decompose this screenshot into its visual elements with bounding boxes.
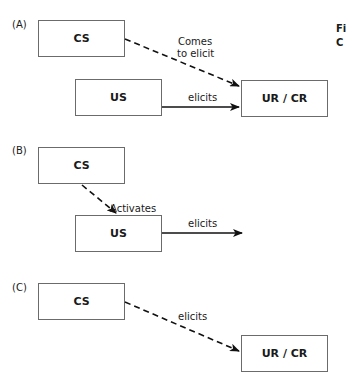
conditioning-diagram: Fi C (A) CS US UR / CR Comes to elicit e… xyxy=(0,0,354,388)
panel-c: (C) CS UR / CR elicits xyxy=(12,282,328,372)
panel-a: (A) CS US UR / CR Comes to elicit elicit… xyxy=(12,19,328,117)
panel-b-cs-node: CS xyxy=(39,148,125,184)
panel-c-response-label: UR / CR xyxy=(262,347,308,360)
panel-b-us-node: US xyxy=(76,216,162,252)
panel-a-solid-label: elicits xyxy=(188,92,217,103)
panel-a-us-label: US xyxy=(110,91,127,104)
panel-c-dashed-label: elicits xyxy=(178,311,207,322)
figure-caption-line1: Fi xyxy=(336,23,346,34)
panel-c-cs-label: CS xyxy=(73,295,89,308)
figure-caption-line2: C xyxy=(336,37,343,48)
panel-a-cs-node: CS xyxy=(39,21,125,57)
panel-b-us-label: US xyxy=(110,227,127,240)
panel-a-dashed-label-line2: to elicit xyxy=(177,48,214,59)
panel-c-response-node: UR / CR xyxy=(242,336,328,372)
panel-a-response-label: UR / CR xyxy=(262,92,308,105)
panel-a-label: (A) xyxy=(12,19,27,30)
panel-b-label: (B) xyxy=(12,145,27,156)
panel-a-dashed-label-line1: Comes xyxy=(178,36,212,47)
panel-c-cs-node: CS xyxy=(39,284,125,320)
panel-b-cs-label: CS xyxy=(73,159,89,172)
panel-a-response-node: UR / CR xyxy=(242,81,328,117)
panel-b-solid-label: elicits xyxy=(188,218,217,229)
panel-b: (B) CS US Activates elicits xyxy=(12,145,242,252)
panel-a-us-node: US xyxy=(76,80,162,116)
panel-b-dashed-label: Activates xyxy=(110,203,156,214)
panel-a-cs-label: CS xyxy=(73,32,89,45)
panel-c-label: (C) xyxy=(12,282,27,293)
panel-c-cs-to-response-arrow xyxy=(125,302,239,351)
